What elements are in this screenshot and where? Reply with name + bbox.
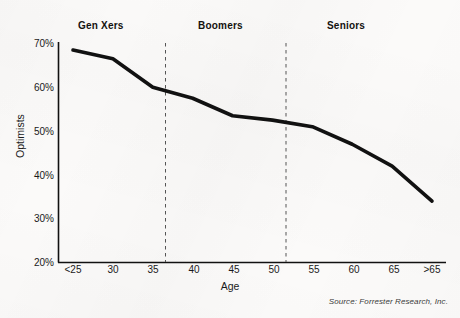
plot-area: [0, 0, 460, 318]
chart-container: Gen Xers Boomers Seniors 70% 60% 50% 40%…: [0, 0, 460, 318]
optimists-data-line: [73, 50, 432, 201]
